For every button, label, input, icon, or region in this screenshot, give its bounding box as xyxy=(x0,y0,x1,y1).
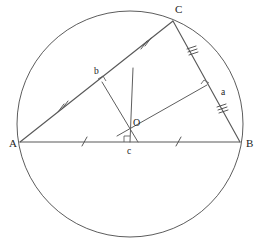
vertex-label-c: C xyxy=(175,3,182,15)
vertex-label-b: B xyxy=(246,137,253,149)
circumcircle xyxy=(17,11,243,237)
geometry-diagram-canvas: A B C O c b a xyxy=(0,0,263,250)
vertex-label-a: A xyxy=(9,137,17,149)
tick-group-ac-upper xyxy=(141,38,151,49)
perpendicular-bisector-ac xyxy=(102,82,138,142)
right-angle-mark-c xyxy=(124,136,130,142)
tick-group-bc-lower xyxy=(217,104,228,113)
circumcenter-figure: A B C O c b a xyxy=(0,0,263,250)
tick-group-ac-lower xyxy=(58,101,68,112)
perpendicular-bisector-bc xyxy=(117,85,207,136)
right-angle-mark-b xyxy=(98,76,106,81)
foot-label-c: c xyxy=(127,146,131,156)
foot-label-b: b xyxy=(94,66,99,76)
tick-group-bc-upper xyxy=(187,46,198,55)
foot-label-a: a xyxy=(221,87,226,97)
center-label-o: O xyxy=(133,117,140,128)
